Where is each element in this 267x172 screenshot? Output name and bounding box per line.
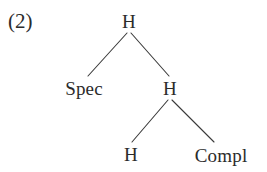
tree-node-spec: Spec: [65, 79, 103, 98]
tree-node-root-h: H: [122, 12, 136, 31]
tree-node-head-h: H: [124, 145, 138, 164]
branch-root-to-bar: [131, 33, 169, 76]
branch-root-to-spec: [88, 33, 127, 76]
tree-node-compl: Compl: [195, 146, 248, 165]
branch-bar-to-compl: [172, 100, 214, 142]
syntax-tree-figure: (2) H Spec H H Compl: [0, 0, 267, 172]
branch-bar-to-head: [132, 100, 168, 142]
tree-node-bar-h: H: [163, 79, 177, 98]
